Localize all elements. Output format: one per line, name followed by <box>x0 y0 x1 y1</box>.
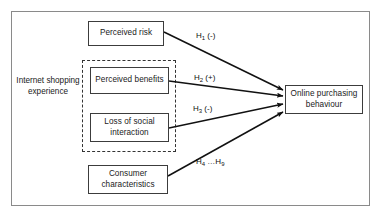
edge-label-h4-h9: H4 …H9 <box>196 157 224 166</box>
edge-label-h3-prefix: H <box>193 104 199 113</box>
edge-label-h1-subscript: 1 <box>202 35 205 41</box>
edge-label-h3: H3 (-) <box>193 104 212 113</box>
edge-label-h2-subscript: 2 <box>200 77 203 83</box>
edge-label-h2-sign: (+) <box>203 73 215 82</box>
edge-label-h3-sign: (-) <box>202 104 212 113</box>
edge-label-h4-subscript: 4 <box>202 161 205 167</box>
node-loss-of-social-interaction-label: Loss of social interaction <box>91 117 168 138</box>
node-perceived-risk-label: Perceived risk <box>100 28 152 39</box>
node-loss-of-social-interaction: Loss of social interaction <box>90 113 169 142</box>
node-perceived-risk: Perceived risk <box>88 21 164 46</box>
edge-label-h1-sign: (-) <box>205 31 215 40</box>
context-label: Internet shopping experience <box>15 76 81 97</box>
edge-label-h4-h9-separator: …H <box>205 157 221 166</box>
node-perceived-benefits: Perceived benefits <box>90 67 169 94</box>
edge-label-h2-prefix: H <box>194 73 200 82</box>
node-online-purchasing-behaviour: Online purchasing behaviour <box>285 85 363 114</box>
diagram-canvas: Internet shopping experience Perceived r… <box>0 0 383 218</box>
edge-label-h9-subscript: 9 <box>221 161 224 167</box>
edge-label-h1: H1 (-) <box>196 31 215 40</box>
edge-label-h2: H2 (+) <box>194 73 215 82</box>
node-perceived-benefits-label: Perceived benefits <box>95 75 163 86</box>
edge-label-h1-prefix: H <box>196 31 202 40</box>
edge-label-h4-prefix: H <box>196 157 202 166</box>
node-online-purchasing-behaviour-label: Online purchasing behaviour <box>286 89 362 110</box>
node-consumer-characteristics: Consumer characteristics <box>88 165 168 194</box>
node-consumer-characteristics-label: Consumer characteristics <box>89 169 167 190</box>
edge-label-h3-subscript: 3 <box>199 108 202 114</box>
